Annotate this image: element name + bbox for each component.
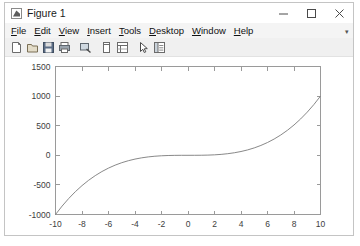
menu-item-window[interactable]: Window: [192, 23, 226, 38]
edit-plot-arrow-icon: [137, 41, 150, 54]
close-icon: [334, 8, 345, 19]
menu-label-window-rest: indow: [201, 25, 226, 36]
plot-axes[interactable]: -10-8-6-4-20246810 -1000-500050010001500: [5, 57, 353, 235]
menu-item-edit[interactable]: Edit: [34, 23, 50, 38]
figure-toolbar: [5, 38, 353, 57]
save-figure-icon: [42, 41, 55, 54]
menu-bar: File Edit View Insert Tools Desktop Wind…: [5, 23, 353, 38]
menu-item-tools[interactable]: Tools: [119, 23, 141, 38]
x-tick-label: -8: [78, 219, 86, 229]
menu-overflow-icon[interactable]: ▾: [345, 28, 349, 35]
show-plot-tools-icon: [153, 41, 166, 54]
close-button[interactable]: [325, 3, 353, 23]
open-file-icon: [26, 41, 39, 54]
data-cursor-button[interactable]: [99, 40, 114, 55]
minimize-icon: [278, 8, 289, 19]
edit-plot-button[interactable]: [136, 40, 151, 55]
y-tick-label: 1500: [32, 62, 51, 72]
window-controls: [269, 3, 353, 23]
save-figure-button[interactable]: [41, 40, 56, 55]
figure-window: Figure 1 File Edit View: [4, 2, 354, 236]
menu-label-tools-rest: ools: [124, 25, 141, 36]
menu-label-help-rest: elp: [241, 25, 254, 36]
y-tick-label: -1000: [29, 210, 51, 220]
menu-label-insert-rest: nsert: [90, 25, 111, 36]
menu-item-insert[interactable]: Insert: [87, 23, 111, 38]
window-title: Figure 1: [27, 3, 66, 23]
menu-label-view-rest: iew: [65, 25, 79, 36]
data-cursor-icon: [100, 41, 113, 54]
y-tick-label: -500: [33, 180, 50, 190]
menu-item-view[interactable]: View: [59, 23, 79, 38]
x-tick-label: 0: [186, 219, 191, 229]
x-tick-label: -6: [105, 219, 113, 229]
x-tick-label: 10: [316, 219, 326, 229]
print-figure-icon: [58, 41, 71, 54]
figure-canvas[interactable]: -10-8-6-4-20246810 -1000-500050010001500: [5, 57, 353, 235]
x-tick-label: 6: [265, 219, 270, 229]
x-tick-labels: -10-8-6-4-20246810: [49, 219, 325, 229]
axes-box: [56, 67, 321, 215]
x-tick-label: 4: [239, 219, 244, 229]
zoom-region-icon: [79, 41, 92, 54]
y-tick-marks: [56, 67, 321, 215]
x-tick-marks: [56, 67, 321, 215]
x-tick-label: 2: [212, 219, 217, 229]
insert-legend-icon: [116, 41, 129, 54]
x-tick-label: -10: [49, 219, 62, 229]
matlab-figure-icon: [11, 8, 22, 19]
insert-legend-button[interactable]: [115, 40, 130, 55]
menu-item-desktop[interactable]: Desktop: [149, 23, 184, 38]
menu-label-edit-rest: dit: [41, 25, 51, 36]
open-file-button[interactable]: [25, 40, 40, 55]
maximize-button[interactable]: [297, 3, 325, 23]
menu-item-file[interactable]: File: [11, 23, 26, 38]
new-figure-button[interactable]: [9, 40, 24, 55]
maximize-icon: [306, 8, 317, 19]
menu-label-file-rest: ile: [17, 25, 27, 36]
new-figure-icon: [10, 41, 23, 54]
x-tick-label: -2: [158, 219, 166, 229]
x-tick-label: 8: [292, 219, 297, 229]
y-tick-label: 1000: [32, 91, 51, 101]
title-bar[interactable]: Figure 1: [5, 3, 353, 23]
data-series-line: [56, 96, 321, 214]
zoom-region-button[interactable]: [78, 40, 93, 55]
print-figure-button[interactable]: [57, 40, 72, 55]
menu-item-help[interactable]: Help: [234, 23, 254, 38]
menu-label-desktop-rest: esktop: [156, 25, 184, 36]
x-tick-label: -4: [131, 219, 139, 229]
y-tick-label: 500: [36, 121, 50, 131]
y-tick-label: 0: [46, 150, 51, 160]
show-plot-tools-button[interactable]: [152, 40, 167, 55]
y-tick-labels: -1000-500050010001500: [29, 62, 51, 220]
minimize-button[interactable]: [269, 3, 297, 23]
